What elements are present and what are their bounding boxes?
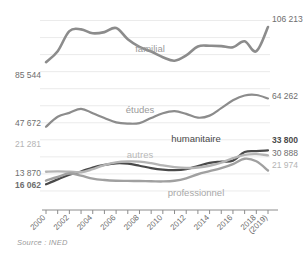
chart-title [30,0,280,2]
x-axis-tick-label: 2012 [169,213,188,232]
series-label-professionnel: professionnel [168,187,225,198]
x-axis-tick-label: 2000 [28,213,47,232]
series-label-humanitaire: humanitaire [171,133,221,144]
series-label-familial: familial [135,43,165,54]
start-value-autres: 21 281 [15,139,41,149]
x-axis-tick-label: 2016 [215,213,234,232]
x-axis-tick-label: 2014 [192,213,211,232]
x-axis-tick-label: 2006 [99,213,118,232]
x-axis-tick-label: 2008 [122,213,141,232]
end-value-familial: 106 213 [272,14,303,24]
series-line-tudes [46,95,268,127]
source-note: Source : INED [17,238,68,247]
x-axis-tick-label: 2004 [75,213,94,232]
end-value-autres: 30 888 [272,148,298,158]
x-axis-tick-label: 2002 [52,213,71,232]
series-label-autres: autres [127,149,154,160]
series-label-tudes: études [126,104,155,115]
end-value-tudes: 64 262 [272,91,298,101]
start-value-professionnel: 16 062 [15,180,41,190]
end-value-professionnel: 21 974 [272,160,298,170]
start-value-tudes: 47 672 [15,118,41,128]
start-value-humanitaire: 13 870 [15,168,41,178]
start-value-familial: 85 544 [15,70,41,80]
end-value-humanitaire: 33 800 [272,135,298,145]
line-chart-plot: familialétudeshumanitaireautresprofessio… [0,0,308,238]
chart-figure: familialétudeshumanitaireautresprofessio… [0,0,308,258]
x-axis-tick-label: 2010 [145,213,164,232]
series-line-humanitaire [46,150,268,184]
